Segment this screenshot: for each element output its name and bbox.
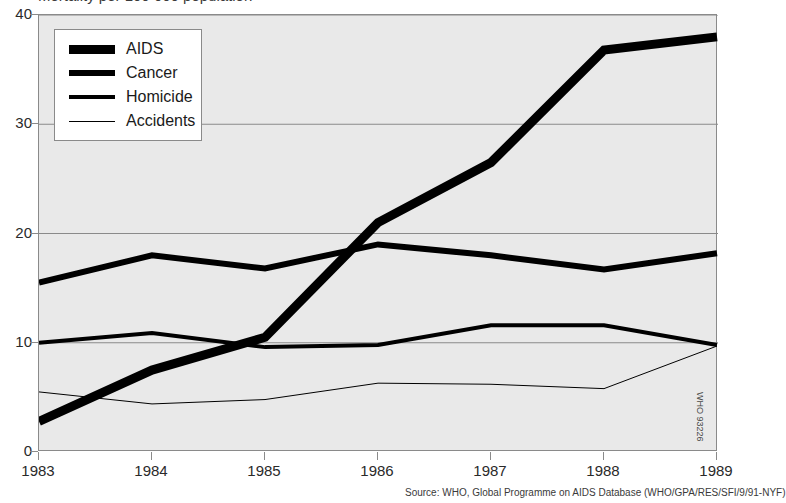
- source-note: Source: WHO, Global Programme on AIDS Da…: [405, 487, 786, 498]
- legend-item-cancer[interactable]: Cancer: [55, 61, 201, 85]
- legend-swatch-icon: [67, 121, 117, 122]
- legend-item-aids[interactable]: AIDS: [55, 37, 201, 61]
- y-tick-mark: [30, 14, 38, 15]
- document-code: WHO 93226: [695, 392, 705, 442]
- x-tick-mark: [151, 452, 152, 460]
- x-tick-mark: [264, 452, 265, 460]
- y-axis: 010203040: [0, 0, 32, 503]
- series-line-cancer: [39, 244, 717, 282]
- x-axis: 1983198419851986198719881989: [0, 462, 738, 484]
- x-tick-mark: [38, 452, 39, 460]
- x-tick-mark: [490, 452, 491, 460]
- y-tick-mark: [30, 123, 38, 124]
- legend-label: Accidents: [126, 112, 195, 130]
- chart-title-strip: Mortality per 100 000 population: [0, 0, 738, 9]
- legend-item-accidents[interactable]: Accidents: [55, 109, 201, 133]
- x-tick-mark: [377, 452, 378, 460]
- x-tick-mark: [603, 452, 604, 460]
- x-tick-label: 1985: [229, 462, 299, 479]
- y-tick-label: 30: [2, 115, 32, 130]
- x-tick-label: 1987: [455, 462, 525, 479]
- y-tick-mark: [30, 233, 38, 234]
- y-tick-label: 10: [2, 334, 32, 349]
- x-tick-mark: [716, 452, 717, 460]
- y-tick-mark: [30, 451, 38, 452]
- y-tick-label: 40: [2, 6, 32, 21]
- legend-swatch-icon: [67, 95, 117, 99]
- y-tick-mark: [30, 342, 38, 343]
- legend-item-homicide[interactable]: Homicide: [55, 85, 201, 109]
- legend-swatch-icon: [67, 70, 117, 76]
- legend-swatch-icon: [67, 45, 117, 54]
- x-tick-label: 1988: [568, 462, 638, 479]
- legend-label: Homicide: [126, 88, 193, 106]
- y-tick-label: 20: [2, 225, 32, 240]
- x-tick-label: 1989: [681, 462, 751, 479]
- series-line-homicide: [39, 325, 717, 347]
- x-tick-label: 1983: [3, 462, 73, 479]
- legend-label: Cancer: [126, 64, 178, 82]
- page-title: Mortality per 100 000 population: [38, 0, 252, 4]
- x-tick-label: 1986: [342, 462, 412, 479]
- chart-legend: AIDSCancerHomicideAccidents: [54, 29, 202, 141]
- y-tick-label: 0: [2, 443, 32, 458]
- legend-label: AIDS: [126, 40, 163, 58]
- x-tick-label: 1984: [116, 462, 186, 479]
